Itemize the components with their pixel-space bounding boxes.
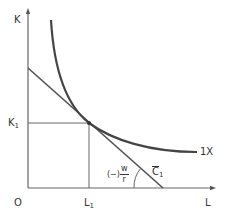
l1-label-sub: 1 bbox=[90, 202, 94, 210]
isocost-label-sub: 1 bbox=[159, 171, 163, 179]
x-axis-arrow-icon bbox=[210, 186, 216, 190]
slope-fraction: wr bbox=[120, 165, 129, 184]
isoquant-curve bbox=[51, 20, 197, 152]
slope-label-prefix: (−) bbox=[107, 170, 120, 179]
isocost-label-main: C bbox=[152, 166, 159, 177]
isocost-label: C1 bbox=[152, 166, 163, 179]
x-axis-label: L bbox=[205, 198, 211, 208]
isoquant-label: 1X bbox=[200, 147, 213, 157]
k1-label-sub: 1 bbox=[15, 122, 19, 130]
slope-label: (−)wr bbox=[107, 165, 129, 184]
slope-denominator: r bbox=[120, 175, 129, 184]
origin-label: O bbox=[14, 198, 22, 208]
y-axis-arrow-icon bbox=[26, 8, 30, 14]
isoquant-diagram bbox=[0, 0, 226, 217]
l1-label: L1 bbox=[84, 198, 94, 210]
k1-label: K1 bbox=[8, 118, 19, 130]
y-axis-label: K bbox=[14, 15, 21, 25]
slope-angle-arc bbox=[134, 168, 141, 188]
tangency-point bbox=[87, 121, 91, 125]
slope-numerator: w bbox=[120, 165, 129, 175]
